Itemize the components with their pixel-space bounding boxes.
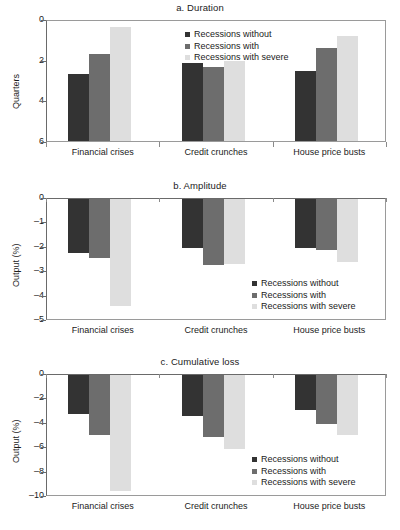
panel-cumulative-loss: c. Cumulative loss Output (%) 0–2–4–6–8–… (0, 354, 400, 530)
x-category-label: Credit crunches (159, 325, 272, 335)
bar (316, 199, 337, 250)
y-tick-mark (41, 496, 46, 497)
bar (89, 199, 110, 258)
bar (89, 54, 110, 141)
legend-item: Recessions with (185, 41, 289, 53)
legend-item: Recessions with severe (252, 477, 356, 489)
legend-item: Recessions with (252, 466, 356, 478)
bar (203, 67, 224, 141)
bar (316, 375, 337, 424)
bar (68, 199, 89, 253)
x-tick-mark (46, 374, 47, 378)
legend-item: Recessions with (252, 290, 356, 302)
bar (316, 48, 337, 141)
bar (224, 199, 245, 264)
legend-item: Recessions without (252, 278, 356, 290)
x-tick-mark (273, 374, 274, 378)
x-tick-mark (46, 198, 47, 202)
x-tick-mark (159, 374, 160, 378)
legend-label: Recessions with (261, 466, 326, 478)
x-category-label: House price busts (273, 501, 386, 511)
x-category-label: Financial crises (46, 501, 159, 511)
panel-a-legend: Recessions withoutRecessions withRecessi… (185, 29, 289, 64)
panel-c-title: c. Cumulative loss (0, 356, 400, 367)
x-category-label: Credit crunches (159, 501, 272, 511)
legend-label: Recessions with severe (261, 477, 356, 489)
x-tick-mark (386, 142, 387, 147)
legend-swatch-icon (185, 44, 190, 49)
legend-item: Recessions without (252, 454, 356, 466)
panel-c-legend: Recessions withoutRecessions withRecessi… (252, 454, 356, 489)
legend-swatch-icon (252, 457, 257, 462)
x-category-label: House price busts (273, 325, 386, 335)
bar (68, 375, 89, 414)
legend-label: Recessions with severe (261, 301, 356, 313)
x-tick-mark (386, 198, 387, 202)
bar (182, 63, 203, 141)
legend-label: Recessions without (261, 278, 339, 290)
panel-duration: a. Duration Quarters 6420 Financial cris… (0, 0, 400, 178)
bar (110, 27, 131, 141)
panel-b-title: b. Amplitude (0, 180, 400, 191)
bar (203, 199, 224, 265)
x-category-label: Financial crises (46, 325, 159, 335)
bar (295, 375, 316, 410)
bar (224, 375, 245, 449)
legend-swatch-icon (252, 480, 257, 485)
panel-a-title: a. Duration (0, 2, 400, 13)
panel-b-legend: Recessions withoutRecessions withRecessi… (252, 278, 356, 313)
bar (89, 375, 110, 435)
bar (224, 61, 245, 141)
legend-swatch-icon (185, 32, 190, 37)
bar (337, 375, 358, 435)
bar (68, 74, 89, 141)
x-tick-mark (159, 198, 160, 202)
x-category-label: House price busts (273, 147, 386, 157)
x-category-label: Financial crises (46, 147, 159, 157)
bar (295, 71, 316, 141)
legend-label: Recessions with severe (194, 52, 289, 64)
figure-recession-characteristics: a. Duration Quarters 6420 Financial cris… (0, 0, 400, 530)
legend-swatch-icon (252, 469, 257, 474)
bar (110, 375, 131, 491)
legend-label: Recessions without (194, 29, 272, 41)
bar (337, 36, 358, 141)
bar (337, 199, 358, 262)
legend-swatch-icon (185, 55, 190, 60)
legend-swatch-icon (252, 293, 257, 298)
x-category-label: Credit crunches (159, 147, 272, 157)
y-tick-mark (41, 320, 46, 321)
bar (182, 199, 203, 248)
bar (295, 199, 316, 248)
bar (182, 375, 203, 416)
legend-item: Recessions with severe (252, 301, 356, 313)
x-tick-mark (273, 198, 274, 202)
legend-label: Recessions with (261, 290, 326, 302)
legend-swatch-icon (252, 281, 257, 286)
legend-label: Recessions with (194, 41, 259, 53)
legend-swatch-icon (252, 304, 257, 309)
legend-item: Recessions with severe (185, 52, 289, 64)
bar (203, 375, 224, 437)
legend-item: Recessions without (185, 29, 289, 41)
x-tick-mark (386, 374, 387, 378)
bar (110, 199, 131, 306)
legend-label: Recessions without (261, 454, 339, 466)
panel-amplitude: b. Amplitude Output (%) 0–1–2–3–4–5 Fina… (0, 178, 400, 354)
